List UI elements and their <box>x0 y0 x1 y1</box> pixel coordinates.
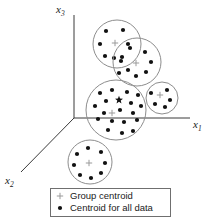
data-point <box>163 105 167 109</box>
data-point <box>120 55 124 59</box>
data-point <box>98 42 102 46</box>
data-point <box>144 70 148 74</box>
axis-label-x2: x2 <box>4 174 14 189</box>
data-point <box>120 131 124 135</box>
figure-canvas: x1x2x3Group centroidCentroid for all dat… <box>0 0 218 223</box>
cluster-right-small-boundary <box>146 82 178 114</box>
data-point <box>86 146 90 150</box>
data-point <box>143 50 147 54</box>
legend: Group centroidCentroid for all data <box>51 189 171 217</box>
data-point <box>98 91 102 95</box>
data-point <box>110 88 114 92</box>
axis-label-sub-x3: 3 <box>60 9 65 18</box>
cluster-upper-right <box>113 38 161 86</box>
data-point <box>134 74 138 78</box>
data-point <box>121 28 125 32</box>
data-point <box>135 118 139 122</box>
data-point <box>126 42 130 46</box>
cluster-top <box>93 20 141 68</box>
axes-group: x1x2x3 <box>4 3 202 189</box>
cluster-scatter-figure: x1x2x3Group centroidCentroid for all dat… <box>0 0 218 223</box>
axis-line-x2 <box>21 118 74 172</box>
data-point <box>96 117 100 121</box>
data-point <box>99 171 103 175</box>
data-point <box>128 46 132 50</box>
cluster-bottom <box>68 140 112 184</box>
data-point <box>104 99 108 103</box>
data-point <box>93 104 97 108</box>
legend-overall-centroid-label: Centroid for all data <box>70 202 154 213</box>
data-point <box>103 54 107 58</box>
axis-label-x3: x3 <box>55 3 65 18</box>
data-point <box>153 102 157 106</box>
data-point <box>110 119 114 123</box>
data-point <box>149 91 153 95</box>
data-point <box>129 101 133 105</box>
data-point <box>131 111 135 115</box>
data-point <box>131 129 135 133</box>
axis-label-x1: x1 <box>192 118 202 133</box>
legend-dot-icon <box>58 206 62 210</box>
data-point <box>75 152 79 156</box>
data-point <box>102 111 106 115</box>
data-point <box>165 88 169 92</box>
data-point <box>119 59 123 63</box>
data-point <box>106 128 110 132</box>
data-point <box>125 90 129 94</box>
data-point <box>122 120 126 124</box>
data-point <box>136 93 140 97</box>
data-point <box>104 29 108 33</box>
data-point <box>118 108 122 112</box>
data-point <box>78 173 82 177</box>
axis-label-sub-x1: 1 <box>198 124 202 133</box>
cluster-right-small <box>146 82 178 114</box>
data-point <box>126 68 130 72</box>
data-point <box>103 161 107 165</box>
overall-centroid-marker <box>115 96 123 104</box>
data-point <box>168 98 172 102</box>
data-point <box>149 60 153 64</box>
data-point <box>99 150 103 154</box>
cluster-center-large-boundary <box>86 80 146 140</box>
data-point <box>89 176 93 180</box>
data-point <box>117 71 121 75</box>
axis-label-sub-x2: 2 <box>10 180 14 189</box>
data-point <box>139 104 143 108</box>
data-point <box>72 163 76 167</box>
legend-group-centroid-label: Group centroid <box>70 190 133 201</box>
cluster-center-large <box>86 80 146 140</box>
